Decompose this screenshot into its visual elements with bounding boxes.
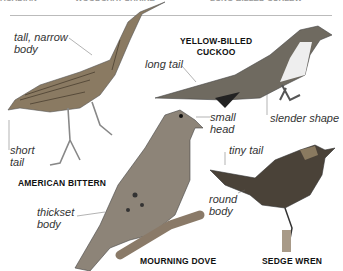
label-round-body: roundbody [209, 193, 237, 217]
name-mourning-dove: MOURNING DOVE [140, 256, 216, 267]
label-slender-shape: slender shape [270, 112, 339, 124]
mourning-dove-illustration [75, 110, 203, 271]
american-bittern-illustration [8, 2, 165, 165]
name-sedge-wren: SEDGE WREN [262, 256, 322, 267]
label-long-tail: long tail [145, 58, 183, 70]
label-thickset-body: thicksetbody [37, 206, 74, 230]
name-yellow-billed-cuckoo: YELLOW-BILLEDCUCKOO [180, 36, 252, 58]
name-american-bittern: AMERICAN BITTERN [18, 178, 106, 189]
label-small-head: smallhead [210, 111, 236, 135]
label-short-tail: shorttail [10, 144, 34, 168]
label-tiny-tail: tiny tail [229, 144, 263, 156]
label-tall-narrow-body: tall, narrowbody [14, 31, 68, 55]
